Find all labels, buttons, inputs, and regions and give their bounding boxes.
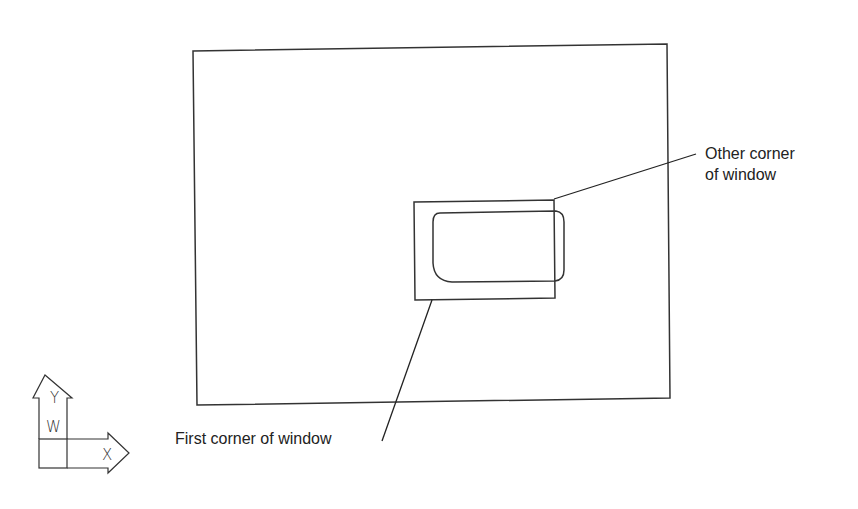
leader-line-first-corner — [382, 300, 432, 441]
rounded-rectangle-object — [433, 211, 564, 282]
label-other-corner-line1: Other corner — [705, 143, 795, 164]
leader-line-other-corner — [554, 154, 696, 199]
label-other-corner-line2: of window — [705, 164, 795, 185]
ucs-origin-square — [39, 439, 67, 468]
diagram-canvas: Y W X — [0, 0, 858, 509]
ucs-x-letter: X — [102, 446, 112, 464]
ucs-y-letter: Y — [50, 389, 59, 407]
label-other-corner: Other corner of window — [705, 143, 795, 185]
ucs-x-arrow — [67, 433, 129, 473]
ucs-w-letter: W — [46, 418, 61, 436]
label-first-corner: First corner of window — [175, 428, 332, 449]
drawing-area-border — [193, 44, 670, 405]
